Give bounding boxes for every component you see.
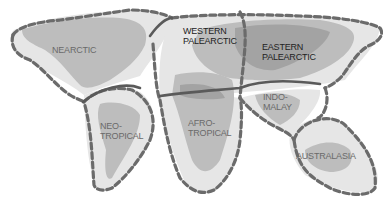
realm-label-neotropical: NEO- TROPICAL — [100, 121, 143, 141]
world-map: NEARCTIC WESTERN PALEARCTIC EASTERN PALE… — [0, 0, 383, 207]
realm-label-indo-malay: INDO- MALAY — [263, 92, 292, 112]
realm-label-western-palearctic: WESTERN PALEARCTIC — [183, 26, 237, 46]
realm-label-nearctic: NEARCTIC — [52, 45, 96, 55]
realm-label-eastern-palearctic: EASTERN PALEARCTIC — [262, 42, 316, 62]
realm-label-australasia: AUSTRALASIA — [296, 151, 356, 161]
realm-label-afrotropical: AFRO- TROPICAL — [188, 118, 231, 138]
